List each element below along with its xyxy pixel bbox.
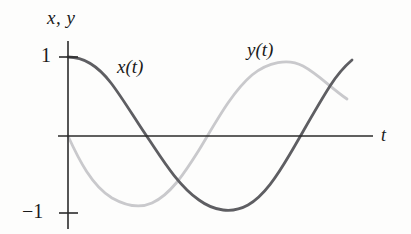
series-annotation-y: y(t) (247, 40, 273, 59)
chart-figure: x, y t 1 −1 x(t) y(t) (0, 0, 411, 234)
plot-canvas (0, 0, 411, 234)
tick-label-positive-one: 1 (41, 45, 51, 65)
series-annotation-x: x(t) (117, 57, 143, 76)
axis-label-horizontal: t (381, 126, 386, 144)
tick-label-negative-one: −1 (22, 201, 43, 221)
axis-label-vertical: x, y (47, 8, 75, 27)
